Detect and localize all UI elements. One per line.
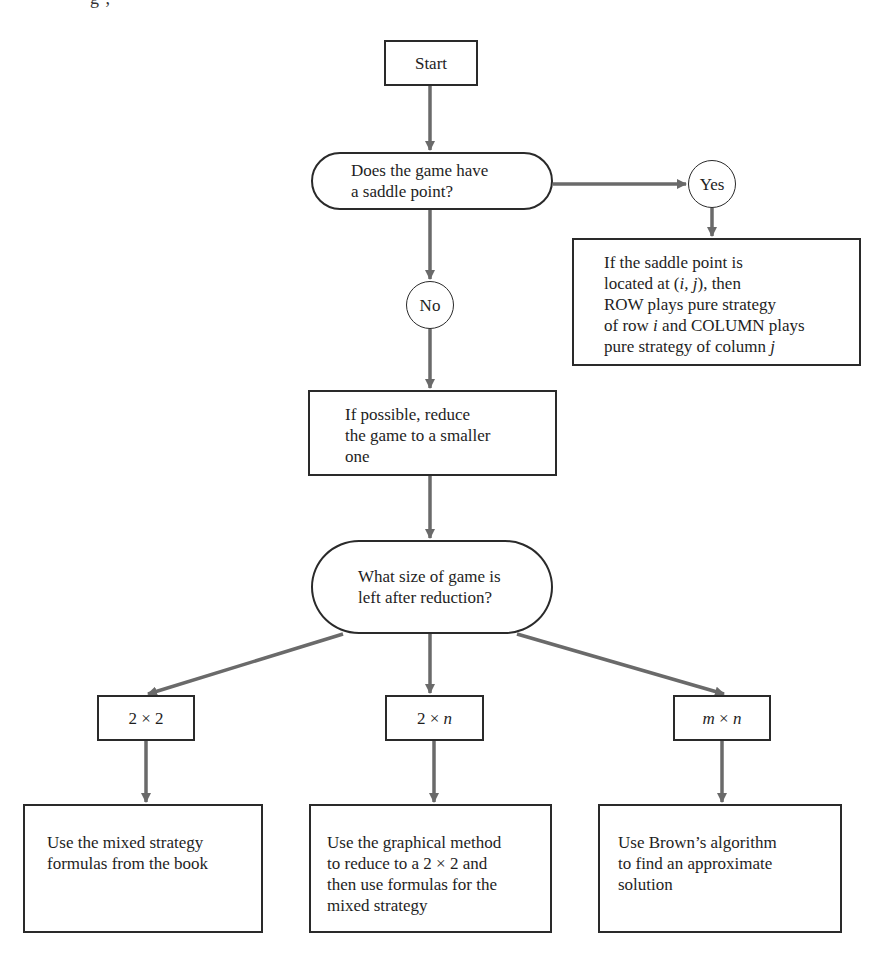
outcome-mxn-line-1: Use Brown’s algorithm [618, 832, 832, 853]
outcome-2x2-line-2: formulas from the book [47, 853, 253, 874]
yes-label: Yes [700, 174, 725, 195]
saddle-result-line-3: ROW plays pure strategy [604, 294, 849, 315]
size-box-mxn: m × n [673, 695, 771, 741]
decision-saddle-line-2: a saddle point? [351, 181, 488, 202]
decision-saddle-point: Does the game have a saddle point? [311, 152, 553, 210]
yes-connector: Yes [688, 160, 736, 208]
outcome-2xn-line-4: mixed strategy [327, 895, 542, 916]
outcome-2xn-line-3: then use formulas for the [327, 874, 542, 895]
decision-game-size: What size of game is left after reductio… [311, 540, 553, 634]
reduce-game-box: If possible, reduce the game to a smalle… [308, 390, 557, 476]
reduce-line-2: the game to a smaller [345, 425, 545, 446]
outcome-mxn-line-2: to find an approximate [618, 853, 832, 874]
saddle-result-line-2: located at (i, j), then [604, 273, 849, 294]
no-label: No [420, 295, 441, 316]
reduce-line-1: If possible, reduce [345, 404, 545, 425]
size-label-mxn: m × n [703, 708, 742, 729]
saddle-result-line-5: pure strategy of column j [604, 336, 849, 357]
outcome-box-mxn: Use Brown’s algorithm to find an approxi… [598, 804, 842, 933]
size-box-2xn: 2 × n [385, 695, 484, 741]
start-label: Start [415, 53, 447, 74]
outcome-2xn-line-2: to reduce to a 2 × 2 and [327, 853, 542, 874]
saddle-result-line-1: If the saddle point is [604, 252, 849, 273]
no-connector: No [406, 281, 454, 329]
decision-size-line-1: What size of game is [358, 566, 501, 587]
outcome-2xn-line-1: Use the graphical method [327, 832, 542, 853]
reduce-line-3: one [345, 446, 545, 467]
outcome-mxn-line-3: solution [618, 874, 832, 895]
outcome-box-2x2: Use the mixed strategy formulas from the… [23, 804, 263, 933]
saddle-point-result-box: If the saddle point is located at (i, j)… [572, 238, 861, 366]
size-box-2x2: 2 × 2 [97, 695, 195, 741]
outcome-2x2-line-1: Use the mixed strategy [47, 832, 253, 853]
decision-size-line-2: left after reduction? [358, 587, 501, 608]
size-label-2xn: 2 × n [417, 708, 452, 729]
outcome-box-2xn: Use the graphical method to reduce to a … [309, 804, 552, 933]
decision-saddle-line-1: Does the game have [351, 160, 488, 181]
start-box: Start [384, 40, 478, 86]
saddle-result-line-4: of row i and COLUMN plays [604, 315, 849, 336]
size-label-2x2: 2 × 2 [128, 708, 163, 729]
